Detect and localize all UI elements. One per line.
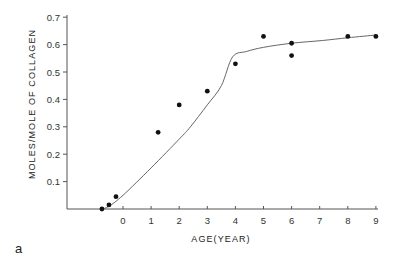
x-tick-label: 6 [289, 215, 294, 226]
x-tick-label: 1 [148, 215, 153, 226]
y-tick-label: 0.1 [47, 176, 60, 187]
x-tick-label: 0 [120, 215, 125, 226]
data-point [107, 202, 112, 207]
axes [67, 15, 378, 209]
data-point [100, 207, 105, 212]
data-point [345, 34, 350, 39]
panel-label: a [15, 241, 23, 256]
y-tick-label: 0.2 [47, 149, 60, 160]
y-tick-label: 0.3 [47, 121, 60, 132]
y-tick-label: 0.5 [47, 67, 60, 78]
x-tick-label: 4 [233, 215, 238, 226]
data-point [289, 53, 294, 58]
x-axis-title: AGE(YEAR) [191, 234, 250, 244]
data-point [289, 41, 294, 46]
data-point [114, 194, 119, 199]
data-point [261, 34, 266, 39]
data-point [205, 89, 210, 94]
chart-container: 0.10.20.30.40.50.60.7 0123456789 AGE(YEA… [0, 0, 399, 263]
y-axis-title: MOLES/MOLE OF COLLAGEN [27, 29, 37, 179]
y-tick-label: 0.6 [47, 39, 60, 50]
y-tick-label: 0.4 [47, 94, 60, 105]
y-ticks: 0.10.20.30.40.50.60.7 [47, 12, 67, 187]
x-tick-label: 9 [373, 215, 378, 226]
data-point [374, 34, 379, 39]
x-tick-label: 7 [317, 215, 322, 226]
y-tick-label: 0.7 [47, 12, 60, 23]
x-tick-label: 2 [177, 215, 182, 226]
scatter-chart: 0.10.20.30.40.50.60.7 0123456789 AGE(YEA… [0, 0, 399, 263]
data-point [156, 130, 161, 135]
data-point [177, 102, 182, 107]
x-tick-label: 8 [345, 215, 350, 226]
data-points [100, 34, 379, 211]
fitted-curve [102, 35, 376, 209]
x-tick-label: 5 [261, 215, 266, 226]
data-point [233, 61, 238, 66]
x-tick-label: 3 [205, 215, 210, 226]
